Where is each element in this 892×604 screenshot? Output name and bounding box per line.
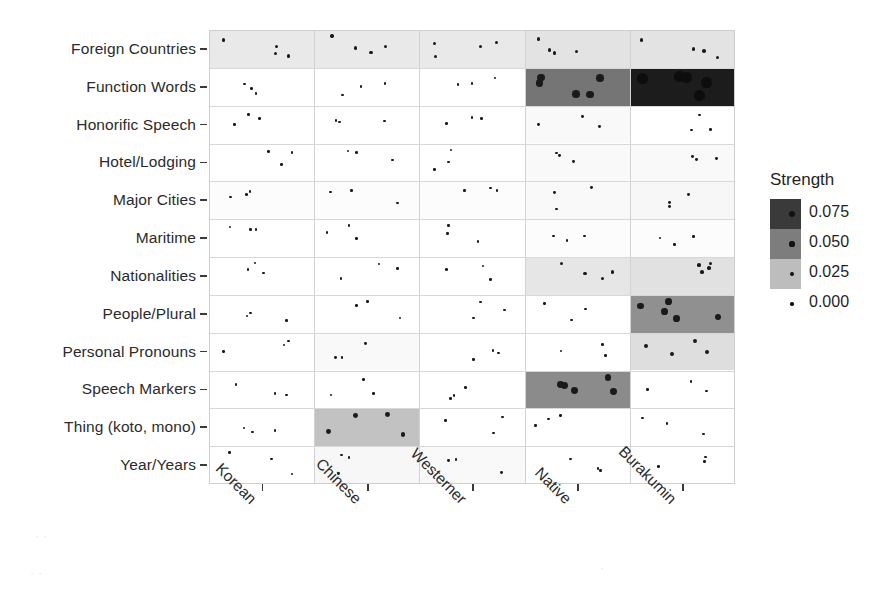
- heatmap-cell[interactable]: [419, 181, 524, 219]
- y-axis-label: Year/Years: [120, 456, 200, 474]
- y-axis-tick-speech-markers: Speech Markers: [0, 371, 209, 409]
- heatmap-dot: [707, 266, 711, 270]
- heatmap-dot: [572, 90, 580, 98]
- gridline-horizontal: [209, 408, 735, 409]
- heatmap-dot: [558, 154, 561, 157]
- heatmap-cell[interactable]: [209, 68, 314, 106]
- heatmap-figure: Foreign CountriesFunction WordsHonorific…: [0, 0, 892, 604]
- heatmap-cell[interactable]: [419, 106, 524, 144]
- heatmap-cell[interactable]: [525, 181, 630, 219]
- heatmap-cell[interactable]: [525, 408, 630, 446]
- heatmap-cell[interactable]: [419, 371, 524, 409]
- heatmap-cell[interactable]: [209, 408, 314, 446]
- y-axis-tick-maritime: Maritime: [0, 219, 209, 257]
- heatmap-dot: [571, 387, 578, 394]
- heatmap-dot: [335, 119, 338, 122]
- heatmap-cell[interactable]: [209, 30, 314, 68]
- heatmap-dot: [222, 350, 225, 353]
- heatmap-cell[interactable]: [419, 30, 524, 68]
- heatmap-dot: [715, 157, 718, 160]
- x-tick-mark: [577, 484, 579, 491]
- scan-artifact: · ·: [30, 565, 42, 580]
- heatmap-cell[interactable]: [630, 30, 735, 68]
- heatmap-dot: [251, 431, 254, 434]
- heatmap-cell[interactable]: [209, 106, 314, 144]
- heatmap-cell[interactable]: [209, 181, 314, 219]
- y-axis-tick-hotel-lodging: Hotel/Lodging: [0, 144, 209, 182]
- heatmap-dot: [446, 232, 449, 235]
- heatmap-cell[interactable]: [314, 68, 419, 106]
- heatmap-dot: [350, 189, 353, 192]
- heatmap-dot: [433, 168, 436, 171]
- heatmap-dot: [270, 458, 273, 461]
- heatmap-cell[interactable]: [209, 371, 314, 409]
- heatmap-panel[interactable]: [209, 30, 735, 484]
- heatmap-cell[interactable]: [209, 295, 314, 333]
- heatmap-cell[interactable]: [419, 408, 524, 446]
- heatmap-dot: [355, 151, 358, 154]
- heatmap-cell[interactable]: [525, 333, 630, 371]
- gridline-horizontal: [209, 333, 735, 334]
- heatmap-cell[interactable]: [209, 219, 314, 257]
- heatmap-dot: [329, 191, 332, 194]
- heatmap-cell[interactable]: [630, 333, 735, 371]
- heatmap-dot: [355, 237, 358, 240]
- heatmap-cell[interactable]: [630, 106, 735, 144]
- heatmap-cell[interactable]: [630, 181, 735, 219]
- heatmap-cell[interactable]: [314, 106, 419, 144]
- heatmap-cell[interactable]: [419, 333, 524, 371]
- heatmap-dot: [280, 163, 283, 166]
- heatmap-dot: [245, 193, 248, 196]
- heatmap-dot: [326, 231, 329, 234]
- heatmap-cell[interactable]: [314, 144, 419, 182]
- heatmap-dot: [267, 150, 270, 153]
- heatmap-dot: [596, 74, 604, 82]
- heatmap-cell[interactable]: [630, 257, 735, 295]
- heatmap-cell[interactable]: [525, 106, 630, 144]
- heatmap-cell[interactable]: [525, 219, 630, 257]
- heatmap-cell[interactable]: [209, 333, 314, 371]
- legend-dot: [789, 241, 794, 246]
- heatmap-cell[interactable]: [525, 144, 630, 182]
- heatmap-dot: [497, 352, 500, 355]
- heatmap-cell[interactable]: [630, 144, 735, 182]
- heatmap-cell[interactable]: [314, 371, 419, 409]
- heatmap-cell[interactable]: [314, 408, 419, 446]
- heatmap-cell[interactable]: [525, 257, 630, 295]
- y-tick-mark: [200, 237, 207, 239]
- y-tick-mark: [200, 389, 207, 391]
- heatmap-cell[interactable]: [525, 30, 630, 68]
- heatmap-cell[interactable]: [314, 219, 419, 257]
- heatmap-dot: [692, 235, 695, 238]
- y-axis-tick-major-cities: Major Cities: [0, 181, 209, 219]
- heatmap-cell[interactable]: [209, 257, 314, 295]
- heatmap-dot: [354, 46, 357, 49]
- y-axis-label: Maritime: [136, 229, 200, 247]
- heatmap-dot: [604, 354, 607, 357]
- heatmap-dot: [500, 471, 503, 474]
- heatmap-cell[interactable]: [630, 219, 735, 257]
- legend[interactable]: Strength 0.0750.0500.0250.000: [762, 170, 890, 345]
- heatmap-cell[interactable]: [314, 257, 419, 295]
- heatmap-dot: [396, 202, 399, 205]
- y-axis-tick-thing-koto-mono: Thing (koto, mono): [0, 408, 209, 446]
- heatmap-cell[interactable]: [314, 333, 419, 371]
- heatmap-dot: [693, 339, 697, 343]
- heatmap-cell[interactable]: [525, 295, 630, 333]
- heatmap-cell[interactable]: [419, 144, 524, 182]
- legend-title: Strength: [770, 170, 834, 190]
- heatmap-cell[interactable]: [630, 408, 735, 446]
- y-axis: Foreign CountriesFunction WordsHonorific…: [0, 30, 209, 484]
- heatmap-dot: [661, 308, 668, 315]
- heatmap-dot: [555, 208, 558, 211]
- heatmap-cell[interactable]: [419, 219, 524, 257]
- heatmap-cell[interactable]: [419, 295, 524, 333]
- legend-dot: [790, 302, 793, 305]
- heatmap-dot: [569, 458, 572, 461]
- heatmap-cell[interactable]: [419, 68, 524, 106]
- heatmap-dot: [537, 123, 540, 126]
- y-axis-tick-people-plural: People/Plural: [0, 295, 209, 333]
- heatmap-cell[interactable]: [314, 181, 419, 219]
- heatmap-cell[interactable]: [209, 144, 314, 182]
- heatmap-cell[interactable]: [419, 257, 524, 295]
